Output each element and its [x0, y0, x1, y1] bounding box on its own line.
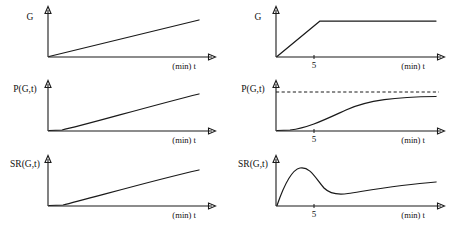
x-axis-label-left-sr: (min) t: [172, 210, 196, 220]
tick-label-five-right-g: 5: [312, 60, 317, 70]
x-axis-label-right-g: (min) t: [401, 61, 425, 71]
y-axis-label-g-left: G: [27, 12, 34, 22]
y-axis-label-sr-right: SR(G,t): [238, 159, 268, 170]
x-axis-label-right-sr: (min) t: [401, 210, 425, 220]
panel-left-g: G (min) t: [0, 0, 228, 76]
series-line-right-p: [277, 97, 436, 131]
y-axis-label-sr-left: SR(G,t): [10, 159, 40, 170]
y-axis-label-p-right: P(G,t): [241, 84, 265, 95]
series-line-right-g: [277, 21, 436, 57]
x-axis-label-left-p: (min) t: [172, 135, 196, 145]
figure-panel-grid: G (min) t G 5 (min) t P(G,t): [0, 0, 457, 226]
y-axis-label-p-left: P(G,t): [13, 84, 37, 95]
tick-label-five-right-p: 5: [312, 134, 317, 144]
panel-left-sr: SR(G,t) (min) t: [0, 151, 228, 226]
series-line-left-p: [49, 94, 199, 131]
panel-right-p: P(G,t) 5 (min) t: [228, 76, 457, 151]
panel-right-g: G 5 (min) t: [228, 0, 457, 76]
x-axis-label-left-g: (min) t: [172, 61, 196, 71]
tick-label-five-right-sr: 5: [312, 209, 317, 219]
series-line-left-sr: [49, 170, 199, 206]
y-axis-label-g-right: G: [255, 12, 262, 22]
series-line-right-sr: [277, 168, 436, 206]
panel-left-p: P(G,t) (min) t: [0, 76, 228, 151]
x-axis-label-right-p: (min) t: [401, 135, 425, 145]
panel-right-sr: SR(G,t) 5 (min) t: [228, 151, 457, 226]
series-line-left-g: [49, 20, 199, 57]
